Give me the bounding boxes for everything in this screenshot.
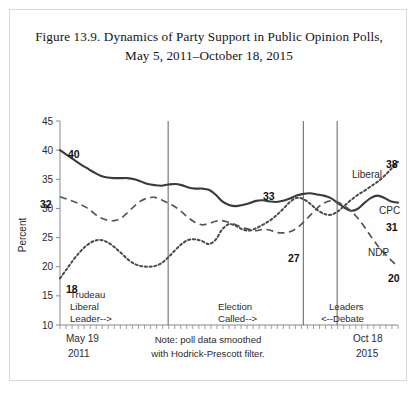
annotation-election-line-2: Called--> — [218, 313, 258, 324]
figure-card: Figure 13.9. Dynamics of Party Support i… — [9, 9, 407, 381]
value-label-cpc-mid: 33 — [263, 190, 275, 202]
value-label-cpc-end: 31 — [386, 221, 398, 233]
y-tick-label: 35 — [42, 174, 54, 185]
annotation-trudeau-line-2: Liberal — [70, 301, 99, 312]
value-label-cpc-start: 40 — [68, 148, 80, 160]
note-line-1: Note: poll data smoothed — [155, 334, 262, 345]
value-label-ndp-end: 20 — [388, 272, 400, 284]
y-tick-label: 15 — [42, 290, 54, 301]
x-start-line-1: May 19 — [66, 333, 99, 344]
value-label-ndp-mid: 27 — [288, 252, 300, 264]
endpoint-value-labels: 4033313227201838 — [40, 148, 400, 295]
y-tick-label: 10 — [42, 320, 54, 331]
x-axis-ticks — [60, 325, 398, 329]
value-label-liberal-start: 18 — [66, 283, 78, 295]
series-lines — [60, 150, 398, 278]
annotation-debate-line-2: <--Debate — [321, 313, 364, 324]
series-line-ndp — [60, 197, 398, 267]
annotation-trudeau-line-3: Leader--> — [70, 313, 112, 324]
y-axis-ticks: 1015202530354045 — [42, 116, 60, 331]
y-tick-label: 25 — [42, 232, 54, 243]
series-line-liberal — [60, 162, 398, 279]
series-label-ndp: NDP — [368, 247, 389, 258]
value-label-liberal-end: 38 — [386, 158, 398, 170]
series-line-cpc — [60, 150, 398, 211]
chart-plot-area: 1015202530354045 Percent Trudeau Liberal… — [10, 10, 408, 382]
y-axis-title: Percent — [17, 218, 28, 253]
y-tick-label: 45 — [42, 116, 54, 127]
value-label-ndp-start: 32 — [40, 198, 52, 210]
x-end-line-1: Oct 18 — [353, 333, 383, 344]
annotation-debate-line-1: Leaders — [329, 301, 364, 312]
x-axis-end-label: Oct 18 2015 — [353, 333, 383, 359]
y-tick-label: 40 — [42, 145, 54, 156]
annotation-election-line-1: Election — [218, 301, 252, 312]
note-line-2: with Hodrick-Prescott filter. — [150, 348, 265, 359]
annotation-leaders-debate: Leaders <--Debate — [321, 301, 364, 324]
x-start-line-2: 2011 — [68, 348, 90, 359]
x-end-line-2: 2015 — [356, 348, 379, 359]
y-tick-label: 20 — [42, 261, 54, 272]
x-axis-start-label: May 19 2011 — [66, 333, 99, 359]
series-label-cpc: CPC — [379, 205, 400, 216]
chart-note: Note: poll data smoothed with Hodrick-Pr… — [150, 334, 265, 359]
annotation-election-called: Election Called--> — [218, 301, 258, 324]
event-vertical-lines — [168, 121, 337, 325]
party-support-line-chart: 1015202530354045 Percent Trudeau Liberal… — [10, 10, 408, 382]
series-label-liberal: Liberal — [352, 169, 382, 180]
